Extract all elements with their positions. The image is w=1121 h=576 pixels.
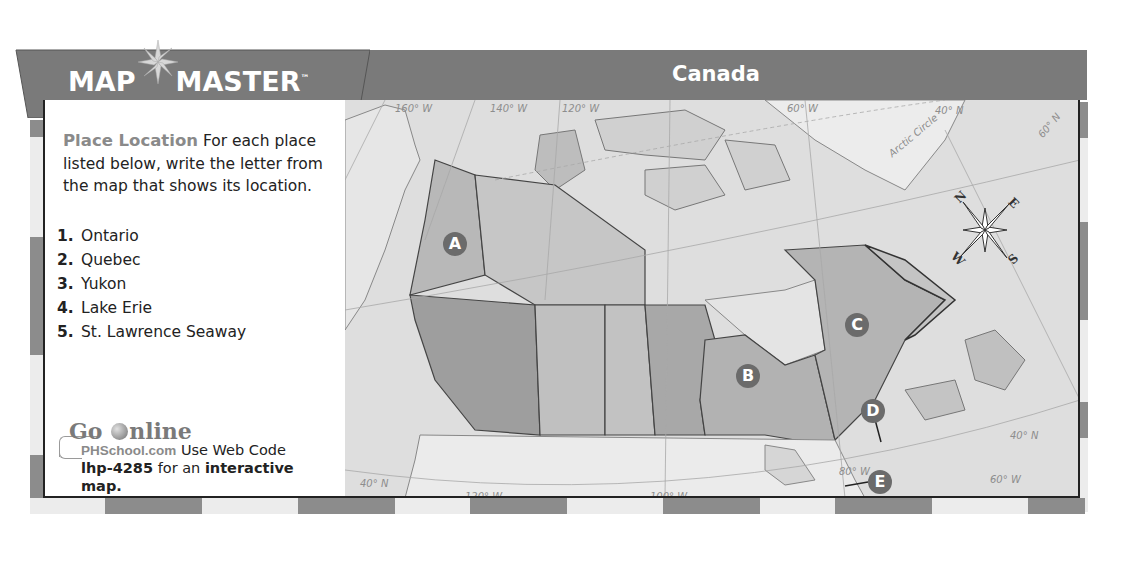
grid-label-60w-bottom: 60° W: [990, 474, 1021, 485]
compass-rose: N E S W: [945, 190, 1025, 270]
map-marker-a: A: [443, 232, 467, 256]
frame-stripe-bottom: [30, 498, 1085, 514]
grid-label-40n-right: 40° N: [1010, 430, 1038, 441]
grid-label-100w: 100° W: [650, 491, 687, 498]
grid-label-120w-bottom: 120° W: [465, 491, 502, 498]
instruction-panel: Place Location For each place listed bel…: [43, 100, 345, 498]
place-list: 1.Ontario 2.Quebec 3.Yukon 4.Lake Erie 5…: [57, 224, 246, 344]
badge-title-master: MASTER: [176, 66, 301, 97]
web-code: lhp-4285: [81, 460, 153, 476]
go-online-logo: Go nline: [69, 418, 192, 444]
map-marker-e: E: [868, 470, 892, 494]
list-number: 4.: [57, 296, 81, 320]
canada-map: 160° W 140° W 120° W 60° W Arctic Circle…: [345, 100, 1080, 498]
list-label: St. Lawrence Seaway: [81, 320, 246, 344]
go-text: Go: [69, 418, 102, 444]
trademark: ™: [300, 73, 309, 83]
interactive-text: interactive: [205, 460, 294, 476]
map-graphic: [345, 100, 1080, 498]
instructions-text: Place Location For each place listed bel…: [63, 130, 339, 198]
list-number: 1.: [57, 224, 81, 248]
list-label: Quebec: [81, 248, 140, 272]
go-online-box: Go nline PHSchool.com Use Web Code lhp-4…: [59, 418, 339, 498]
frame-stripe-left: [30, 120, 44, 512]
list-number: 3.: [57, 272, 81, 296]
grid-label-160w: 160° W: [395, 103, 432, 114]
map-marker-c: C: [845, 313, 869, 337]
list-number: 2.: [57, 248, 81, 272]
map-marker-d: D: [861, 399, 885, 423]
grid-label-120w-top: 120° W: [562, 103, 599, 114]
list-item: 1.Ontario: [57, 224, 246, 248]
grid-label-80w: 80° W: [839, 466, 870, 477]
list-item: 2.Quebec: [57, 248, 246, 272]
for-an-text: for an: [158, 460, 201, 476]
online-text: nline: [129, 418, 192, 444]
web-code-line: PHSchool.com Use Web Code: [81, 442, 286, 458]
list-label: Ontario: [81, 224, 139, 248]
grid-label-140w: 140° W: [490, 103, 527, 114]
list-item: 5.St. Lawrence Seaway: [57, 320, 246, 344]
instructions-lead: Place Location: [63, 131, 198, 150]
map-text: map.: [81, 478, 122, 494]
badge-title: MAPMASTER™: [68, 66, 309, 97]
list-item: 3.Yukon: [57, 272, 246, 296]
web-code-line-2: lhp-4285 for an interactive: [81, 460, 294, 476]
map-title: Canada: [345, 62, 1087, 86]
go-online-bracket-bottom: [59, 450, 82, 459]
map-title-bar: Canada: [345, 50, 1087, 100]
list-number: 5.: [57, 320, 81, 344]
grid-label-40n-top: 40° N: [935, 105, 963, 116]
list-label: Lake Erie: [81, 296, 152, 320]
list-item: 4.Lake Erie: [57, 296, 246, 320]
phschool-link[interactable]: PHSchool.com: [81, 443, 176, 458]
map-marker-b: B: [736, 364, 760, 388]
grid-label-40n-left: 40° N: [360, 478, 388, 489]
globe-icon: [111, 423, 128, 440]
badge-title-map: MAP: [68, 66, 136, 97]
list-label: Yukon: [81, 272, 126, 296]
grid-label-60w-top: 60° W: [787, 103, 818, 114]
use-web-code-text: Use Web Code: [181, 442, 286, 458]
